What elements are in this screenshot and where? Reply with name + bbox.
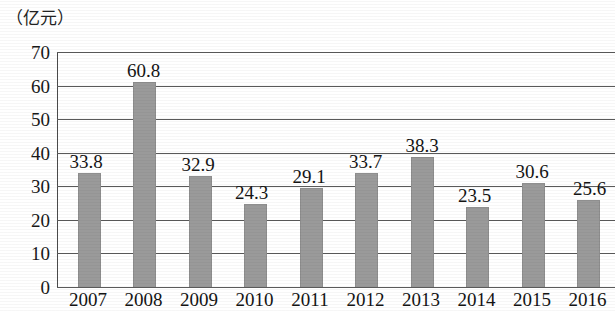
x-tick-label: 2013	[393, 289, 449, 310]
bar	[522, 183, 545, 287]
x-tick-label: 2016	[560, 289, 615, 310]
x-tick-label: 2014	[449, 289, 505, 310]
y-axis-unit-caption: （亿元）	[6, 9, 74, 29]
x-tick-label: 2011	[282, 289, 338, 310]
bar	[466, 207, 489, 287]
bar	[411, 157, 434, 287]
bar-value-label: 33.8	[59, 152, 113, 171]
gridline	[57, 287, 615, 288]
gridline	[57, 52, 615, 53]
bar	[355, 173, 378, 287]
plot-area: 33.860.832.924.329.133.738.323.530.625.6	[57, 52, 615, 287]
x-tick-label: 2007	[60, 289, 116, 310]
bar-value-label: 29.1	[282, 167, 336, 186]
bar-value-label: 30.6	[505, 162, 559, 181]
bar-value-label: 25.6	[563, 179, 615, 198]
y-tick-label: 70	[6, 43, 50, 62]
x-tick-label: 2012	[338, 289, 394, 310]
bar	[189, 176, 212, 287]
bar	[244, 204, 267, 287]
y-tick-label: 50	[6, 110, 50, 129]
bar-value-label: 23.5	[448, 186, 502, 205]
x-tick-label: 2008	[116, 289, 172, 310]
bar-value-label: 24.3	[225, 183, 279, 202]
x-tick-label: 2009	[171, 289, 227, 310]
y-tick-label: 40	[6, 144, 50, 163]
bar	[133, 82, 156, 287]
bar-chart: （亿元） 706050403020100 33.860.832.924.329.…	[0, 0, 615, 311]
y-axis-tick-labels: 706050403020100	[0, 52, 50, 288]
bar	[300, 188, 323, 287]
bar	[78, 173, 101, 287]
bar-value-label: 60.8	[117, 61, 171, 80]
x-axis-tick-labels: 2007200820092010201120122013201420152016	[57, 289, 615, 311]
y-tick-label: 20	[6, 211, 50, 230]
x-tick-label: 2015	[504, 289, 560, 310]
bar-value-label: 38.3	[395, 136, 449, 155]
x-tick-label: 2010	[227, 289, 283, 310]
bar	[577, 200, 600, 287]
bar-value-label: 32.9	[171, 155, 225, 174]
bar-value-label: 33.7	[339, 152, 393, 171]
y-tick-label: 30	[6, 177, 50, 196]
y-tick-label: 60	[6, 77, 50, 96]
y-tick-label: 10	[6, 244, 50, 263]
y-tick-label: 0	[6, 278, 50, 297]
